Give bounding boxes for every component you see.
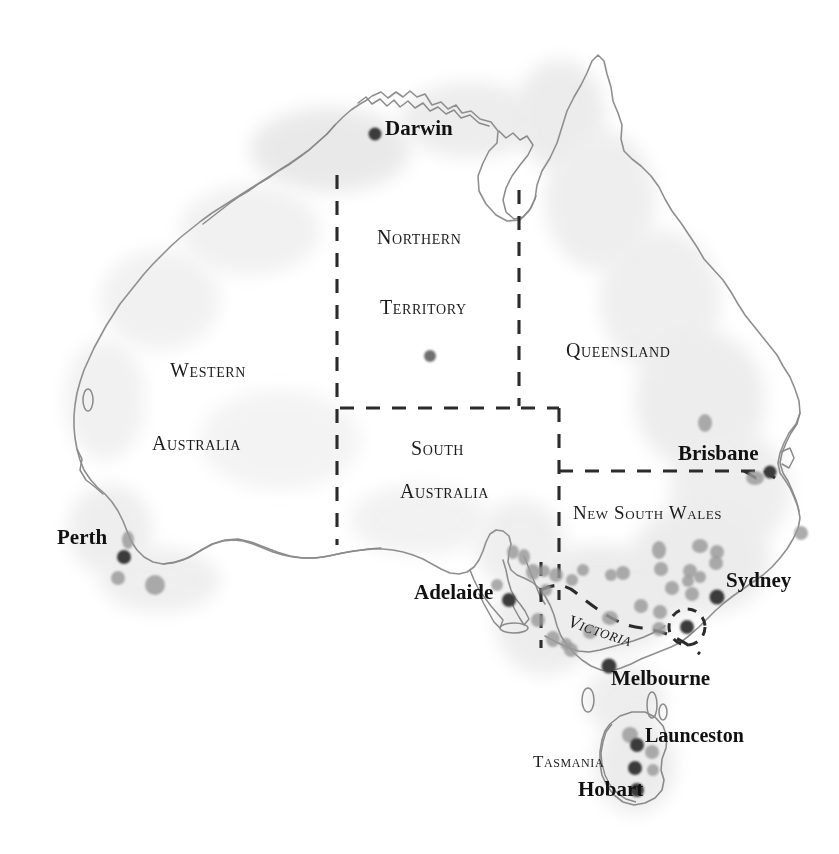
- map-canvas: [0, 0, 839, 854]
- site-dot: [602, 611, 618, 625]
- city-dot-alice-springs: [424, 350, 436, 362]
- site-dot: [692, 539, 708, 553]
- site-dot: [652, 541, 666, 559]
- site-dot: [645, 745, 659, 759]
- site-dot: [491, 579, 503, 591]
- site-dot: [145, 575, 165, 595]
- site-dot: [698, 414, 712, 432]
- site-dot: [709, 556, 723, 570]
- site-dot: [546, 631, 560, 647]
- site-dot: [507, 545, 519, 559]
- site-dot: [685, 587, 699, 601]
- site-dot: [526, 564, 540, 580]
- site-dot: [564, 643, 578, 657]
- site-dot: [647, 764, 659, 776]
- land-shading: [65, 60, 790, 813]
- site-dot: [652, 622, 666, 636]
- site-dot: [616, 566, 630, 580]
- city-dot-melbourne: [602, 659, 617, 674]
- city-dot-perth: [117, 550, 131, 564]
- city-dot-brisbane: [764, 466, 777, 479]
- city-dot-launceston: [630, 738, 644, 752]
- site-dot: [577, 564, 589, 576]
- site-dot: [634, 599, 648, 613]
- city-dot-hobart: [630, 783, 644, 797]
- city-dot-sydney: [710, 590, 725, 605]
- site-dot: [538, 565, 550, 577]
- site-dot: [694, 571, 706, 583]
- australia-map: Western Australia Northern Territory Sou…: [0, 0, 839, 854]
- city-dot-adelaide: [502, 593, 516, 607]
- site-dot: [111, 571, 125, 585]
- site-dot: [518, 549, 530, 565]
- city-dot-canberra: [680, 620, 694, 634]
- site-dot: [653, 605, 667, 619]
- site-dot: [605, 569, 617, 581]
- city-dot-darwin: [369, 128, 382, 141]
- city-dot-tasmania-mid: [628, 761, 642, 775]
- site-dot: [122, 531, 134, 549]
- site-dot: [665, 581, 679, 595]
- site-dot: [583, 625, 597, 639]
- site-dot: [682, 575, 694, 587]
- site-dot: [794, 526, 808, 540]
- site-dot: [549, 568, 563, 582]
- site-dot: [566, 574, 578, 586]
- site-dot: [746, 471, 764, 485]
- site-dot: [540, 584, 552, 596]
- site-dot: [531, 613, 545, 627]
- site-dot: [654, 562, 668, 576]
